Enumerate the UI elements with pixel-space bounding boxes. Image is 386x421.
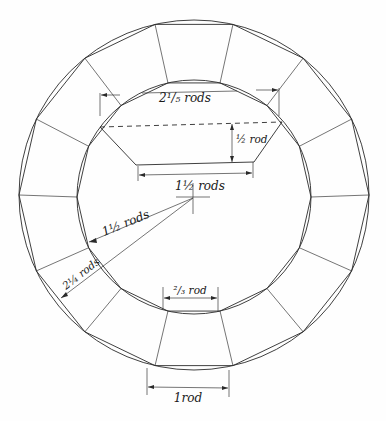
radius-lines: 1½ rods 2¼ rods xyxy=(59,198,193,298)
outer-segment-dimension: 1rod xyxy=(147,368,229,405)
segment-spoke xyxy=(220,24,233,83)
segment-spoke xyxy=(155,24,168,83)
segment-spoke xyxy=(85,58,121,105)
label-inner-radius: 1½ rods xyxy=(100,207,152,239)
ring-diagram: 2¹/₅ rods ½ rod 1½ rods xyxy=(0,0,386,421)
top-dimension: 2¹/₅ rods xyxy=(100,88,279,116)
label-outer-radius: 2¼ rods xyxy=(59,255,102,292)
trap-bottom-dimension: 1½ rods xyxy=(138,162,253,193)
height-dimension: ½ rod xyxy=(230,124,268,162)
segment-spoke xyxy=(36,119,88,146)
outer-circle xyxy=(19,20,369,370)
segment-spoke xyxy=(19,195,77,197)
label-trap-height: ½ rod xyxy=(236,133,268,145)
segment-spoke xyxy=(299,248,351,271)
segment-spoke xyxy=(220,311,233,366)
label-trap-bottom: 1½ rods xyxy=(175,179,225,193)
segment-spoke xyxy=(155,311,168,366)
inner-segment-dimension: ²/₃ rod xyxy=(163,284,218,312)
label-inner-segment: ²/₃ rod xyxy=(173,284,207,296)
segment-spoke xyxy=(299,119,351,146)
segment-spoke xyxy=(267,288,303,331)
drawing-canvas: 2¹/₅ rods ½ rod 1½ rods xyxy=(0,0,386,421)
label-outer-segment: 1rod xyxy=(174,391,203,405)
segment-spoke xyxy=(311,195,369,197)
segment-spoke xyxy=(267,58,303,105)
segment-spoke xyxy=(85,288,121,331)
label-top-width: 2¹/₅ rods xyxy=(158,91,211,105)
